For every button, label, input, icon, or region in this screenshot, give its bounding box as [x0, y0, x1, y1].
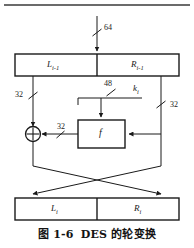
output-left-register-sub: i [56, 208, 58, 215]
label-left-branch-width: 32 [15, 91, 23, 99]
slash-marker-key-48 [107, 89, 116, 96]
subkey-sub: i [137, 88, 139, 95]
label-right-branch-width: 32 [170, 101, 178, 109]
caption-title: DES 的轮变换 [81, 228, 156, 241]
label-input-bitwidth: 64 [104, 24, 112, 32]
label-output-left-register: Li [51, 204, 58, 215]
label-output-right-register: Ri [134, 204, 141, 215]
label-subkey-width: 48 [104, 80, 112, 88]
label-f-output-width: 32 [57, 123, 65, 131]
input-right-register-sub: i-1 [137, 64, 144, 71]
figure-container: 64 Li-1 Ri-1 32 32 32 48 ki f Li Ri 图 1-… [0, 0, 194, 248]
des-round-diagram [0, 0, 194, 248]
label-input-right-register: Ri-1 [131, 60, 144, 71]
label-input-left-register: Li-1 [47, 60, 59, 71]
input-left-register-sub: i-1 [52, 64, 59, 71]
caption-number: 图 1-6 [38, 228, 74, 241]
label-subkey: ki [133, 84, 139, 95]
output-right-register-sub: i [140, 208, 142, 215]
figure-caption: 图 1-6DES 的轮变换 [0, 225, 194, 241]
label-f-function: f [99, 128, 102, 138]
